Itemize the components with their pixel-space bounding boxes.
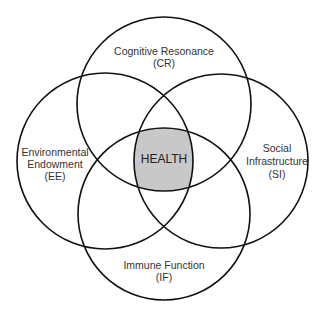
label-endowment: Endowment — [27, 158, 83, 170]
health-venn-diagram: Cognitive Resonance (CR) Environmental E… — [0, 0, 322, 316]
label-immune-function: Immune Function — [123, 259, 204, 271]
label-social: Social — [263, 142, 292, 154]
label-social-infrastructure-abbr: (SI) — [269, 168, 286, 180]
label-health: HEALTH — [141, 152, 187, 166]
label-cognitive-resonance: Cognitive Resonance — [114, 45, 214, 57]
label-immune-function-abbr: (IF) — [156, 271, 172, 283]
label-infrastructure: Infrastructure — [246, 155, 308, 167]
label-environmental: Environmental — [21, 146, 88, 158]
label-cognitive-resonance-abbr: (CR) — [153, 57, 175, 69]
label-environmental-endowment-abbr: (EE) — [45, 170, 66, 182]
